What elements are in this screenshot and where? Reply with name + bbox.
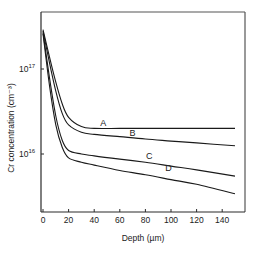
y-tick-label: 1017: [19, 63, 36, 74]
series-label-d: D: [165, 163, 172, 173]
x-tick-label: 100: [164, 215, 178, 225]
data-curves: [43, 30, 235, 194]
curve-a: [43, 30, 235, 129]
curve-d: [43, 34, 235, 194]
concentration-depth-chart: 020406080100120140 10161017 ABCD Depth (…: [0, 0, 256, 253]
x-tick-label: 0: [41, 215, 46, 225]
plot-frame: [41, 12, 245, 212]
x-tick-label: 140: [215, 215, 229, 225]
x-tick-label: 80: [141, 215, 151, 225]
series-label-c: C: [146, 151, 153, 161]
y-ticks: 10161017: [19, 63, 44, 159]
curve-c: [43, 32, 235, 176]
x-tick-label: 120: [190, 215, 204, 225]
x-tick-label: 20: [64, 215, 74, 225]
series-label-b: B: [130, 128, 136, 138]
y-tick-label: 1016: [19, 148, 36, 159]
x-axis-label: Depth (µm): [122, 233, 165, 243]
y-axis-label: Cr concentration (cm⁻³): [6, 83, 16, 173]
x-tick-label: 60: [115, 215, 125, 225]
series-label-a: A: [100, 118, 106, 128]
x-tick-label: 40: [89, 215, 99, 225]
